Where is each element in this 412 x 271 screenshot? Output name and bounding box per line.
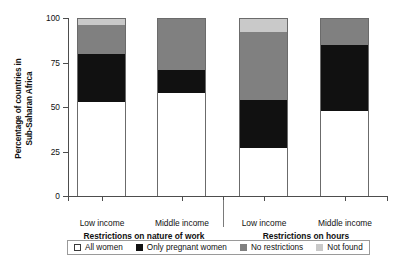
- x-label-low-income-hours: Low income: [242, 218, 287, 228]
- y-axis-title-line-2: Sub-Saharan Africa: [24, 19, 35, 199]
- x-tick-mark: [387, 196, 388, 201]
- x-label-middle-income-hours: Middle income: [318, 218, 372, 228]
- x-axis-line: [68, 196, 388, 197]
- bar-top-edge: [321, 18, 368, 19]
- y-tick-mark: [63, 63, 68, 64]
- x-label-middle-income-work: Middle income: [155, 218, 209, 228]
- legend-label: No restrictions: [251, 243, 303, 252]
- x-label-low-income-work: Low income: [80, 218, 125, 228]
- y-tick-label: 0: [55, 191, 60, 201]
- legend-item-not-found[interactable]: Not found: [316, 243, 363, 252]
- bar-middle-income-nature-of-work[interactable]: [157, 18, 206, 196]
- x-tick-mark: [182, 196, 183, 201]
- segment-not-found[interactable]: [78, 18, 125, 25]
- legend-swatch-icon: [136, 244, 143, 251]
- x-tick-mark: [345, 196, 346, 201]
- segment-only-pregnant-women[interactable]: [158, 70, 205, 93]
- segment-no-restrictions[interactable]: [158, 18, 205, 70]
- bar-top-edge: [78, 18, 125, 19]
- y-tick-label: 100: [46, 13, 60, 23]
- segment-no-restrictions[interactable]: [240, 32, 287, 100]
- y-tick-label: 50: [51, 102, 60, 112]
- y-tick-mark: [63, 107, 68, 108]
- legend-swatch-icon: [74, 244, 81, 251]
- segment-all-women[interactable]: [158, 93, 205, 196]
- segment-all-women[interactable]: [240, 148, 287, 196]
- legend-swatch-icon: [316, 244, 323, 251]
- legend-label: Not found: [327, 243, 363, 252]
- stacked-bar-chart: Percentage of countries in Sub-Saharan A…: [0, 0, 412, 271]
- legend-swatch-icon: [240, 244, 247, 251]
- x-tick-mark: [102, 196, 103, 201]
- plot-area: 0 25 50 75 100 Low in: [68, 18, 388, 196]
- y-axis-title: Percentage of countries in Sub-Saharan A…: [14, 19, 35, 199]
- y-tick-mark: [63, 152, 68, 153]
- y-tick-mark: [63, 18, 68, 19]
- bar-middle-income-hours[interactable]: [320, 18, 369, 196]
- legend-label: Only pregnant women: [147, 243, 227, 252]
- segment-no-restrictions[interactable]: [321, 18, 368, 45]
- y-tick-group-50: 50: [68, 107, 69, 108]
- y-tick-label: 75: [51, 58, 60, 68]
- bar-low-income-hours[interactable]: [239, 18, 288, 196]
- y-tick-group-25: 25: [68, 152, 69, 153]
- x-tick-mark: [68, 196, 69, 201]
- bar-low-income-nature-of-work[interactable]: [77, 18, 126, 196]
- legend-item-all-women[interactable]: All women: [74, 243, 123, 252]
- bar-top-edge: [240, 18, 287, 19]
- y-tick-label: 25: [51, 147, 60, 157]
- legend-item-only-pregnant-women[interactable]: Only pregnant women: [136, 243, 227, 252]
- segment-not-found[interactable]: [240, 18, 287, 32]
- group-divider: [223, 200, 224, 227]
- segment-all-women[interactable]: [321, 111, 368, 196]
- chart-legend: All women Only pregnant women No restric…: [67, 240, 370, 255]
- segment-only-pregnant-women[interactable]: [240, 100, 287, 148]
- segment-only-pregnant-women[interactable]: [78, 54, 125, 102]
- y-tick-group-100: 100: [68, 18, 69, 19]
- x-tick-mark: [264, 196, 265, 201]
- segment-no-restrictions[interactable]: [78, 25, 125, 53]
- y-axis-title-line-1: Percentage of countries in: [14, 19, 25, 199]
- segment-all-women[interactable]: [78, 102, 125, 196]
- bar-top-edge: [158, 18, 205, 19]
- legend-label: All women: [85, 243, 123, 252]
- segment-only-pregnant-women[interactable]: [321, 45, 368, 111]
- legend-item-no-restrictions[interactable]: No restrictions: [240, 243, 303, 252]
- y-tick-group-75: 75: [68, 63, 69, 64]
